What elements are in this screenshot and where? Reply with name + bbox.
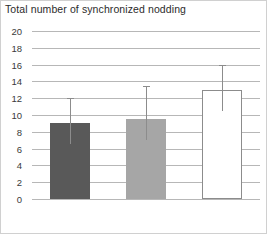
y-axis-tick-label: 10 [0,110,22,121]
plot-area: 02468101214161820LowMiddleHigh [32,31,260,199]
error-bar-low [70,98,71,144]
gridline [32,48,260,49]
y-axis-tick-label: 20 [0,26,22,37]
y-axis-tick-label: 12 [0,93,22,104]
chart-container: Total number of synchronized nodding 024… [0,0,267,234]
error-bar-high [222,65,223,111]
chart-title: Total number of synchronized nodding [5,3,186,15]
gridline [32,81,260,82]
y-axis-tick-label: 2 [0,177,22,188]
error-cap-top-low [67,98,74,99]
gridline [32,31,260,32]
error-cap-top-high [219,65,226,66]
y-axis-tick-label: 14 [0,76,22,87]
y-axis-tick-label: 16 [0,59,22,70]
y-axis-tick-label: 18 [0,42,22,53]
y-axis-tick-label: 6 [0,143,22,154]
y-axis-tick-label: 8 [0,126,22,137]
error-cap-top-middle [143,86,150,87]
error-bar-middle [146,86,147,141]
y-axis-tick-label: 4 [0,160,22,171]
y-axis-tick-label: 0 [0,194,22,205]
gridline [32,199,260,200]
